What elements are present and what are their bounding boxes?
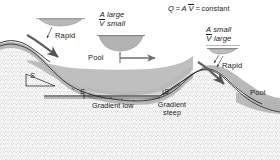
slope-label-left: S	[30, 72, 35, 80]
equation-eq1: =	[176, 4, 181, 13]
cross-section-rapid-right	[209, 49, 236, 54]
label-gradient-steep-line2: steep	[152, 109, 192, 117]
equation-constant: constant	[202, 4, 230, 13]
slope-label-right: S	[164, 88, 169, 96]
callout-rapid-small: small	[213, 25, 231, 34]
callout-pool-large-area: A large V small	[99, 11, 125, 28]
label-pool-right: Pool	[250, 89, 266, 97]
callout-rapid-v-bar: V	[206, 34, 212, 43]
label-rapid-right: Rapid	[222, 62, 242, 70]
cross-section-rapid-left	[39, 19, 82, 26]
equation-q: Q	[168, 4, 174, 13]
continuity-equation: Q=AV=constant	[168, 4, 230, 13]
equation-v-bar: V	[188, 4, 194, 13]
callout-pool-a: A	[100, 10, 105, 19]
equation-a: A	[182, 4, 187, 13]
callout-rapid-small-area: A small V large	[206, 26, 231, 43]
callout-rapid-line2: V large	[206, 34, 231, 43]
callout-pool-small: small	[107, 19, 125, 28]
callout-pool-line2: V small	[99, 19, 125, 28]
callout-pool-line1: A large	[99, 11, 125, 19]
equation-eq2: =	[196, 4, 201, 13]
label-gradient-steep: Gradient steep	[152, 101, 192, 116]
stream-profile-diagram: Q=AV=constant A large V small A small V …	[0, 0, 280, 160]
callout-pool-v-bar: V	[99, 19, 105, 28]
callout-rapid-large: large	[214, 34, 231, 43]
diagram-canvas	[0, 0, 280, 160]
leader-rapid-left	[47, 27, 52, 38]
label-gradient-low: Gradient low	[92, 102, 134, 110]
cross-section-pool	[99, 36, 143, 51]
callout-rapid-line1: A small	[206, 26, 231, 34]
leader-rapid-right-cs	[214, 55, 219, 63]
label-pool-left: Pool	[88, 54, 104, 62]
label-rapid-left: Rapid	[55, 32, 75, 40]
slope-label-mid: S	[80, 88, 85, 96]
callout-pool-large: large	[107, 10, 124, 19]
callout-rapid-a: A	[206, 25, 211, 34]
